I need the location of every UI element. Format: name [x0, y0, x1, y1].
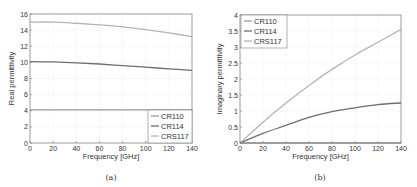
y-tick-label: 10 — [20, 59, 28, 66]
y-tick-label: 0 — [234, 140, 238, 147]
legend: CR110CR114CRS117 — [148, 110, 192, 143]
y-tick-label: 16 — [20, 11, 28, 18]
y-tick-label: 4 — [234, 12, 238, 19]
y-tick-label: 6 — [24, 91, 28, 98]
chart-real-permittivity: 0204060801001201400246810121416Frequency… — [7, 11, 198, 183]
y-tick-label: 3 — [234, 44, 238, 51]
x-tick-label: 20 — [259, 145, 267, 152]
y-tick-label: 1.5 — [228, 92, 238, 99]
legend-label-crs117: CRS117 — [254, 37, 282, 46]
legend-label-cr114: CR114 — [254, 27, 277, 36]
legend-label-cr110: CR110 — [254, 17, 277, 26]
legend-label-cr110: CR110 — [161, 112, 184, 121]
subfigure-caption: (a) — [105, 173, 116, 182]
x-tick-label: 100 — [140, 145, 152, 152]
legend-label-cr114: CR114 — [161, 122, 184, 131]
x-tick-label: 40 — [282, 145, 290, 152]
y-tick-label: 2 — [234, 76, 238, 83]
x-tick-label: 120 — [163, 145, 175, 152]
chart-imaginary-permittivity: 02040608010012014000.511.522.533.54Frequ… — [215, 12, 407, 183]
y-tick-label: 2.5 — [228, 60, 238, 67]
subfigure-caption: (b) — [314, 173, 325, 182]
x-axis-label: Frequency [GHz] — [292, 152, 349, 161]
y-tick-label: 0 — [24, 140, 28, 147]
x-tick-label: 20 — [49, 145, 57, 152]
x-axis-label: Frequency [GHz] — [83, 152, 140, 161]
x-tick-label: 140 — [186, 145, 198, 152]
x-tick-label: 120 — [372, 145, 384, 152]
x-tick-label: 40 — [72, 145, 80, 152]
y-tick-label: 8 — [24, 75, 28, 82]
x-tick-label: 0 — [28, 145, 32, 152]
figure: 0204060801001201400246810121416Frequency… — [0, 0, 417, 187]
y-axis-label: Real permittivity — [7, 52, 16, 106]
y-tick-label: 3.5 — [228, 28, 238, 35]
x-tick-label: 60 — [305, 145, 313, 152]
y-tick-label: 0.5 — [228, 124, 238, 131]
legend: CR110CR114CRS117 — [241, 15, 287, 48]
y-tick-label: 1 — [234, 108, 238, 115]
x-tick-label: 80 — [119, 145, 127, 152]
x-tick-label: 100 — [349, 145, 361, 152]
y-axis-label: Imaginary permittivity — [215, 43, 224, 114]
x-tick-label: 140 — [395, 145, 407, 152]
legend-label-crs117: CRS117 — [161, 132, 189, 141]
x-tick-label: 80 — [328, 145, 336, 152]
x-tick-label: 60 — [96, 145, 104, 152]
y-tick-label: 14 — [20, 27, 28, 34]
x-tick-label: 0 — [238, 145, 242, 152]
y-tick-label: 12 — [20, 43, 28, 50]
y-tick-label: 2 — [24, 123, 28, 130]
y-tick-label: 4 — [24, 107, 28, 114]
